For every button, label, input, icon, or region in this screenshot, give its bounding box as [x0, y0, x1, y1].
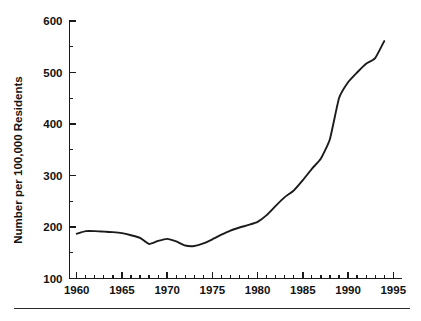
x-tick-label: 1960: [64, 284, 90, 296]
x-tick-label: 1970: [154, 284, 180, 296]
x-tick-label: 1990: [335, 284, 361, 296]
line-chart: 100200300400500600 196019651970197519801…: [0, 0, 421, 321]
y-tick-label: 300: [43, 170, 62, 182]
x-tick-label: 1975: [200, 284, 226, 296]
x-tick-label: 1965: [109, 284, 135, 296]
y-tick-label: 500: [43, 67, 62, 79]
y-tick-label: 200: [43, 221, 62, 233]
x-tick-label: 1985: [290, 284, 316, 296]
y-tick-label: 100: [43, 273, 62, 285]
y-axis-title: Number per 100,000 Residents: [12, 76, 24, 243]
x-tick-labels: 19601965197019751980198519901995: [64, 284, 407, 296]
chart-page: 100200300400500600 196019651970197519801…: [0, 0, 421, 321]
x-tick-label: 1980: [245, 284, 271, 296]
y-tick-marks: [70, 21, 76, 279]
y-tick-label: 400: [43, 118, 62, 130]
y-tick-labels: 100200300400500600: [43, 15, 62, 285]
x-tick-label: 1995: [380, 284, 406, 296]
x-tick-marks: [77, 272, 394, 279]
data-series-line: [77, 41, 384, 246]
y-tick-label: 600: [43, 15, 62, 27]
